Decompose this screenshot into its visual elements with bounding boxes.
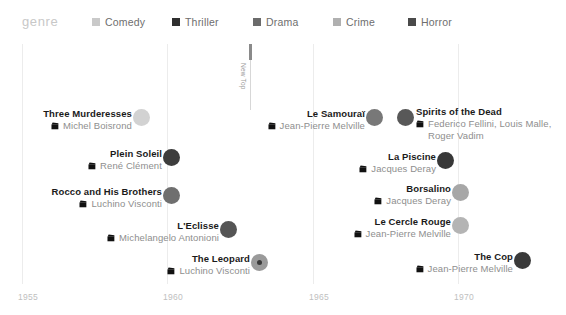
film-director: Federico Fellini, Louis Malle, Roger Vad…: [428, 118, 551, 142]
film-genre-dot[interactable]: [251, 254, 268, 271]
film-director: Michel Boisrond: [63, 120, 132, 132]
film-title: Borsalino: [374, 183, 451, 195]
film-director: Michelangelo Antonioni: [119, 232, 219, 244]
film-director: Jean-Pierre Melville: [428, 263, 513, 275]
film-entry[interactable]: The CopJean-Pierre Melville: [416, 251, 513, 275]
axis-tick-1965: 1965: [309, 292, 329, 302]
gridline-1970: [458, 44, 459, 284]
marker-line: [250, 60, 251, 110]
timeline-plot: New TopThree MurderessesMichel BoisrondP…: [0, 40, 566, 290]
film-slate-icon: [359, 165, 367, 173]
legend-item-crime[interactable]: Crime: [333, 16, 375, 28]
film-credit: Michel Boisrond: [43, 120, 132, 132]
legend-swatch-thriller: [172, 18, 180, 26]
marker-cap: [249, 44, 252, 60]
legend-swatch-comedy: [92, 18, 100, 26]
film-genre-dot[interactable]: [452, 217, 469, 234]
film-slate-icon: [79, 200, 87, 208]
film-genre-dot[interactable]: [163, 149, 180, 166]
gridline-1955: [22, 44, 23, 284]
film-entry[interactable]: L'EclisseMichelangelo Antonioni: [107, 220, 219, 244]
film-genre-dot[interactable]: [437, 152, 454, 169]
film-title: The Leopard: [167, 253, 250, 265]
film-genre-dot[interactable]: [397, 109, 414, 126]
film-director: Luchino Visconti: [179, 265, 250, 277]
film-slate-icon: [88, 162, 96, 170]
film-credit: Jean-Pierre Melville: [416, 263, 513, 275]
film-entry[interactable]: The LeopardLuchino Visconti: [167, 253, 250, 277]
axis-tick-1955: 1955: [18, 292, 38, 302]
legend-label: Comedy: [105, 16, 145, 28]
film-slate-icon: [167, 267, 175, 275]
film-credit: Michelangelo Antonioni: [107, 232, 219, 244]
film-entry[interactable]: La PiscineJacques Deray: [359, 151, 436, 175]
film-title: The Cop: [416, 251, 513, 263]
legend-swatch-crime: [333, 18, 341, 26]
film-entry[interactable]: BorsalinoJacques Deray: [374, 183, 451, 207]
film-title: Three Murderesses: [43, 108, 132, 120]
film-slate-icon: [354, 230, 362, 238]
film-genre-dot[interactable]: [163, 187, 180, 204]
film-director: Jean-Pierre Melville: [366, 228, 451, 240]
film-genre-dot[interactable]: [514, 252, 531, 269]
film-title: Spirits of the Dead: [416, 106, 551, 118]
film-slate-icon: [374, 197, 382, 205]
legend: genre ComedyThrillerDramaCrimeHorror: [0, 0, 566, 40]
legend-label: Crime: [346, 16, 375, 28]
film-director: René Clément: [100, 160, 162, 172]
film-entry[interactable]: Three MurderessesMichel Boisrond: [43, 108, 132, 132]
legend-item-comedy[interactable]: Comedy: [92, 16, 145, 28]
film-title: Plein Soleil: [88, 148, 162, 160]
film-director: Luchino Visconti: [91, 198, 162, 210]
film-entry[interactable]: Rocco and His BrothersLuchino Visconti: [52, 186, 162, 210]
film-credit: Luchino Visconti: [167, 265, 250, 277]
film-director: Jacques Deray: [371, 163, 436, 175]
film-entry[interactable]: Le SamouraïJean-Pierre Melville: [268, 108, 365, 132]
legend-swatch-horror: [408, 18, 416, 26]
film-credit: Jean-Pierre Melville: [268, 120, 365, 132]
film-credit: Jacques Deray: [359, 163, 436, 175]
legend-label: Horror: [421, 16, 452, 28]
film-genre-dot[interactable]: [452, 184, 469, 201]
legend-item-thriller[interactable]: Thriller: [172, 16, 219, 28]
film-genre-dot[interactable]: [220, 221, 237, 238]
film-credit: Federico Fellini, Louis Malle, Roger Vad…: [416, 118, 551, 142]
film-slate-icon: [416, 265, 424, 273]
film-slate-icon: [51, 122, 59, 130]
film-slate-icon: [107, 234, 115, 242]
film-credit: Jean-Pierre Melville: [354, 228, 451, 240]
film-credit: Luchino Visconti: [52, 198, 162, 210]
film-genre-dot-inner: [257, 260, 262, 265]
film-entry[interactable]: Le Cercle RougeJean-Pierre Melville: [354, 216, 451, 240]
x-axis: 1955196019651970: [0, 290, 566, 315]
legend-item-horror[interactable]: Horror: [408, 16, 452, 28]
film-genre-dot[interactable]: [133, 109, 150, 126]
film-director: Jean-Pierre Melville: [280, 120, 365, 132]
legend-title: genre: [22, 14, 58, 29]
legend-item-drama[interactable]: Drama: [253, 16, 299, 28]
film-title: Le Cercle Rouge: [354, 216, 451, 228]
gridline-1965: [313, 44, 314, 284]
marker-label: New Top: [240, 63, 247, 90]
film-slate-icon: [268, 122, 276, 130]
film-genre-dot[interactable]: [366, 109, 383, 126]
legend-swatch-drama: [253, 18, 261, 26]
film-title: La Piscine: [359, 151, 436, 163]
film-slate-icon: [416, 120, 424, 128]
axis-tick-1960: 1960: [163, 292, 183, 302]
film-title: Rocco and His Brothers: [52, 186, 162, 198]
film-title: Le Samouraï: [268, 108, 365, 120]
film-credit: Jacques Deray: [374, 195, 451, 207]
film-title: L'Eclisse: [107, 220, 219, 232]
legend-label: Thriller: [185, 16, 219, 28]
film-entry[interactable]: Spirits of the DeadFederico Fellini, Lou…: [416, 106, 551, 142]
legend-label: Drama: [266, 16, 299, 28]
film-credit: René Clément: [88, 160, 162, 172]
film-entry[interactable]: Plein SoleilRené Clément: [88, 148, 162, 172]
axis-tick-1970: 1970: [454, 292, 474, 302]
film-director: Jacques Deray: [386, 195, 451, 207]
